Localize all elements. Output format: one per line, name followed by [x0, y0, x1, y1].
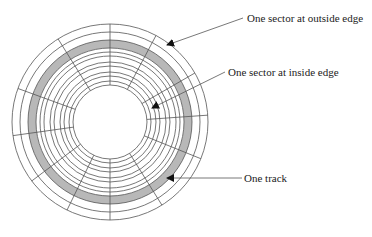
- disk-diagram: One sector at outside edge One sector at…: [0, 0, 372, 237]
- label-outside-sector: One sector at outside edge: [247, 12, 363, 24]
- sector-dividers: [13, 24, 208, 220]
- track-circle: [73, 85, 147, 159]
- track-circle: [69, 81, 151, 163]
- track-circle: [60, 72, 160, 172]
- arrow-outside-sector: [167, 18, 243, 45]
- label-inside-sector: One sector at inside edge: [228, 66, 339, 78]
- sector-divider: [13, 127, 73, 135]
- annotation-track: One track: [167, 172, 288, 184]
- track-circle: [64, 76, 156, 168]
- annotation-outside-sector: One sector at outside edge: [167, 12, 363, 45]
- label-track: One track: [244, 172, 288, 184]
